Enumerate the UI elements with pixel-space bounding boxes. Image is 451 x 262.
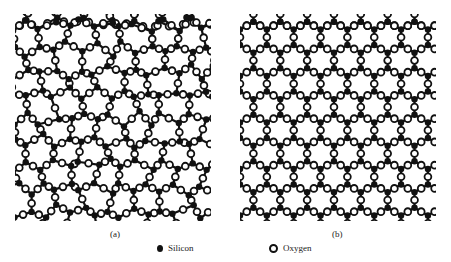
amorphous-structure-panel bbox=[15, 14, 211, 221]
panel-b-caption: (b) bbox=[332, 229, 343, 239]
crystalline-lattice-diagram bbox=[240, 14, 436, 221]
panel-a-caption: (a) bbox=[110, 229, 120, 239]
legend-oxygen-label: Oxygen bbox=[283, 243, 312, 253]
crystalline-structure-panel bbox=[240, 14, 436, 221]
legend-silicon-label: Silicon bbox=[168, 243, 194, 253]
legend-oxygen: Oxygen bbox=[269, 243, 312, 253]
filled-circle-icon bbox=[157, 245, 163, 252]
amorphous-lattice-diagram bbox=[15, 14, 211, 221]
hollow-circle-icon bbox=[269, 244, 278, 253]
legend-silicon: Silicon bbox=[157, 243, 194, 253]
